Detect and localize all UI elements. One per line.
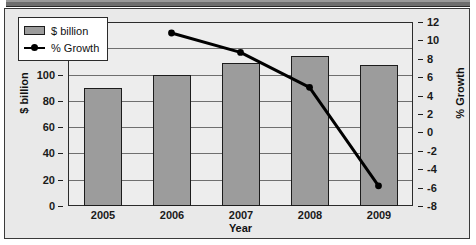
y-tick-right-0: 0 bbox=[427, 126, 433, 138]
y-tick-right-6: 6 bbox=[427, 71, 433, 83]
bar-2007 bbox=[222, 63, 260, 206]
y-tick-left-80: 80 bbox=[43, 95, 55, 107]
y-tickmark-right bbox=[418, 188, 423, 189]
x-tick-2005: 2005 bbox=[91, 209, 115, 221]
y-tickmark-right bbox=[418, 151, 423, 152]
y-tickmark-right bbox=[418, 59, 423, 60]
y-tick-left-20: 20 bbox=[43, 174, 55, 186]
y-tick-left-100: 100 bbox=[37, 69, 55, 81]
y-tick-left-60: 60 bbox=[43, 121, 55, 133]
y-tickmark-right bbox=[418, 206, 423, 207]
bar-swatch-icon bbox=[24, 26, 45, 35]
legend-item-line: % Growth bbox=[24, 39, 99, 56]
y-tickmark-left bbox=[58, 101, 63, 102]
chart-page: 140120100806040200 121086420-2-4-6-8 200… bbox=[0, 0, 476, 245]
y-tickmark-right bbox=[418, 40, 423, 41]
y-tick-right-8: 8 bbox=[427, 53, 433, 65]
y-tickmark-left bbox=[58, 206, 63, 207]
gridline bbox=[68, 48, 413, 49]
y-tick-right--8: -8 bbox=[427, 200, 437, 212]
x-tick-2006: 2006 bbox=[160, 209, 184, 221]
y-tick-right-4: 4 bbox=[427, 90, 433, 102]
legend-item-bar: $ billion bbox=[24, 22, 99, 39]
y-tick-right--6: -6 bbox=[427, 182, 437, 194]
y-tick-right-10: 10 bbox=[427, 34, 439, 46]
y-tick-left-0: 0 bbox=[49, 200, 55, 212]
y-axis-right-title: % Growth bbox=[454, 56, 466, 130]
y-tick-right--2: -2 bbox=[427, 145, 437, 157]
y-tickmark-left bbox=[58, 180, 63, 181]
y-tick-right-2: 2 bbox=[427, 108, 433, 120]
y-tickmark-left bbox=[58, 75, 63, 76]
y-axis-left-title: $ billion bbox=[18, 58, 30, 128]
chart-legend: $ billion % Growth bbox=[18, 17, 108, 61]
y-tickmark-left bbox=[58, 127, 63, 128]
y-axis-right-ticks: 121086420-2-4-6-8 bbox=[418, 22, 452, 206]
bar-2009 bbox=[360, 65, 398, 206]
y-tick-left-40: 40 bbox=[43, 147, 55, 159]
top-edge-highlight bbox=[6, 0, 470, 2]
y-tickmark-left bbox=[58, 153, 63, 154]
legend-label-line: % Growth bbox=[51, 42, 99, 54]
y-axis-right bbox=[412, 22, 413, 206]
y-tickmark-right bbox=[418, 169, 423, 170]
chart-frame: 140120100806040200 121086420-2-4-6-8 200… bbox=[4, 8, 470, 239]
plot-border-top bbox=[68, 22, 413, 23]
y-tick-right--4: -4 bbox=[427, 163, 437, 175]
x-axis-title: Year bbox=[68, 222, 413, 234]
legend-label-bar: $ billion bbox=[51, 25, 88, 37]
y-tickmark-right bbox=[418, 114, 423, 115]
bar-2005 bbox=[84, 88, 122, 206]
y-tickmark-right bbox=[418, 22, 423, 23]
y-tickmark-right bbox=[418, 96, 423, 97]
y-tickmark-right bbox=[418, 132, 423, 133]
bar-2008 bbox=[291, 56, 329, 206]
bar-2006 bbox=[153, 75, 191, 206]
x-tick-2007: 2007 bbox=[229, 209, 253, 221]
x-tick-2008: 2008 bbox=[298, 209, 322, 221]
x-tick-2009: 2009 bbox=[367, 209, 391, 221]
y-tickmark-right bbox=[418, 77, 423, 78]
y-tick-right-12: 12 bbox=[427, 16, 439, 28]
line-marker-swatch-icon bbox=[24, 43, 45, 52]
